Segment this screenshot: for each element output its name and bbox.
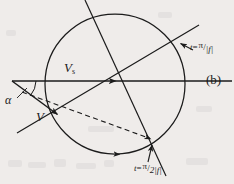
label-vs: Vs <box>64 61 75 76</box>
annotation-t-half-period: t=π/|f| <box>190 43 214 52</box>
alpha-angle-arc <box>31 81 37 96</box>
t-quarter-denominator: 2|f| <box>150 165 162 175</box>
v-vector <box>12 81 58 115</box>
label-v: V <box>36 110 44 123</box>
diagram-canvas <box>0 0 234 184</box>
label-vs-base: V <box>64 60 72 75</box>
t-half-numerator: π <box>199 40 204 50</box>
chord-t-half <box>17 25 199 133</box>
t-half-denominator: |f| <box>206 44 213 54</box>
panel-label-b: (b) <box>206 73 221 86</box>
t-quarter-numerator: π <box>143 161 148 171</box>
annotation-t-quarter-period: t=π/2|f| <box>134 164 163 173</box>
label-alpha: α <box>5 94 11 106</box>
t-quarter-leader-arrow <box>148 145 152 162</box>
inertial-oscillation-diagram: Vs V α (b) t=π/|f| t=π/2|f| <box>0 0 234 184</box>
label-vs-subscript: s <box>72 67 75 76</box>
trajectory-circle <box>45 14 185 154</box>
